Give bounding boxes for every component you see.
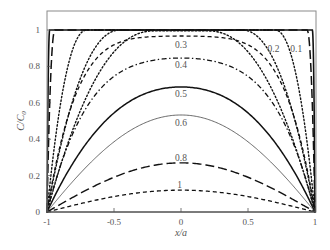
curve-label: 0.8 <box>175 153 187 163</box>
x-tick-label: 0 <box>179 217 184 227</box>
curve-label: 1 <box>177 180 182 190</box>
x-tick-label: -0.5 <box>107 217 122 227</box>
x-axis-label: x/a <box>174 227 187 238</box>
curve-label: 0.6 <box>175 118 187 128</box>
x-tick-label: 0.5 <box>242 217 254 227</box>
x-ticks: -1-0.500.51 <box>43 208 317 227</box>
y-tick-label: 0.6 <box>29 98 41 108</box>
x-tick-label: -1 <box>43 217 51 227</box>
y-tick-label: 0.2 <box>29 171 40 181</box>
x-tick-label: 1 <box>313 217 318 227</box>
y-tick-label: 0 <box>36 207 41 217</box>
y-tick-label: 1 <box>36 25 41 35</box>
y-axis-label: C/C0 <box>15 111 28 131</box>
chart: -1-0.500.51 00.20.40.60.81 0.30.40.50.60… <box>0 0 330 250</box>
curve-label: 0.3 <box>175 40 187 50</box>
curve-label: 0.4 <box>175 60 187 70</box>
curve-label: 0.5 <box>175 89 187 99</box>
y-tick-label: 0.8 <box>29 61 41 71</box>
y-tick-label: 0.4 <box>29 134 41 144</box>
curve-label: 0.1 <box>290 44 302 54</box>
curve-label: 0.2 <box>268 44 280 54</box>
curve-labels: 0.30.40.50.60.810.20.1 <box>175 40 302 190</box>
